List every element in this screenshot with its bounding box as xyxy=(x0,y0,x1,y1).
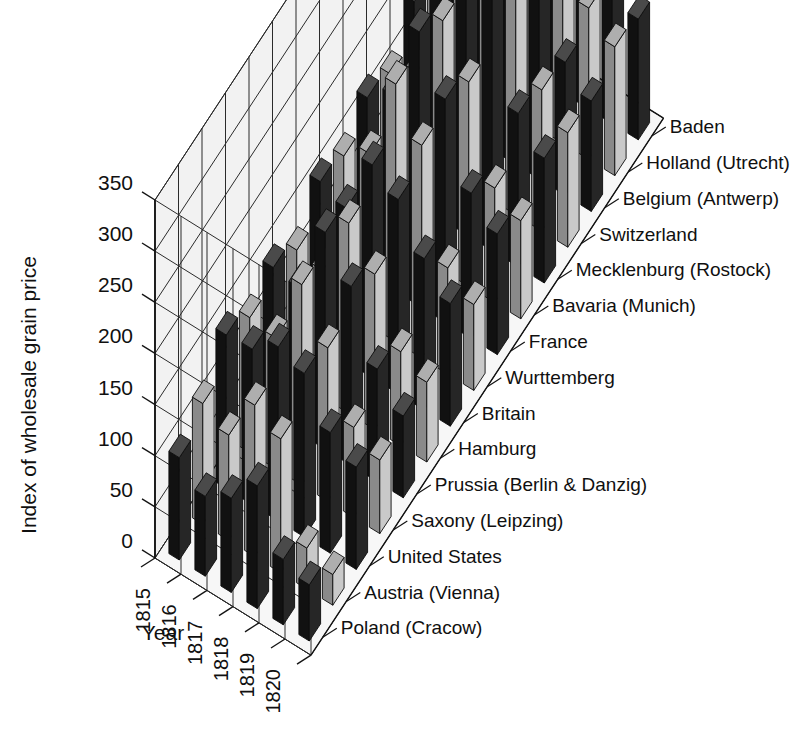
bar-side-face xyxy=(320,426,330,553)
series-axis-label: Wurttemberg xyxy=(505,367,614,388)
y-axis-tick-label: 0 xyxy=(121,529,133,552)
bar-side-face xyxy=(604,40,614,175)
bar-front-face xyxy=(638,2,649,140)
bar-side-face xyxy=(487,228,497,355)
series-axis-label: Prussia (Berlin & Danzig) xyxy=(435,474,647,495)
bar-14-5 xyxy=(628,0,650,140)
y-axis-tick-label: 250 xyxy=(98,273,133,296)
bar-side-face xyxy=(628,13,638,140)
bar-7-5 xyxy=(463,281,485,391)
y-axis-tick-label: 100 xyxy=(98,427,133,450)
bar-front-face xyxy=(544,141,555,283)
y-axis-tick xyxy=(142,345,155,353)
series-axis-label: United States xyxy=(388,546,502,567)
series-axis-label: Switzerland xyxy=(599,224,697,245)
x-axis-tick xyxy=(245,623,259,632)
series-axis-label: Austria (Vienna) xyxy=(364,582,500,603)
bar-13-5 xyxy=(604,23,626,176)
bar-side-face xyxy=(221,492,231,593)
grain-price-3d-bar-chart: 050100150200250300350 181518161817181818… xyxy=(0,0,801,733)
bar-0-2 xyxy=(221,475,243,593)
bar-side-face xyxy=(581,95,591,212)
bar-side-face xyxy=(416,376,426,462)
y-axis-tick-label: 200 xyxy=(98,324,133,347)
x-axis-tick xyxy=(141,558,155,567)
bar-0-1 xyxy=(195,473,217,576)
x-axis-tick xyxy=(297,655,311,664)
y-axis-tick xyxy=(142,397,155,405)
bar-side-face xyxy=(346,461,356,570)
bar-6-5 xyxy=(440,280,462,426)
bar-front-face xyxy=(257,469,268,609)
x-axis-tick xyxy=(219,607,233,616)
bar-side-face xyxy=(557,126,567,247)
y-axis-tick xyxy=(142,448,155,456)
bar-side-face xyxy=(247,479,257,608)
y-axis-tick xyxy=(142,192,155,200)
bar-side-face xyxy=(169,451,179,560)
bar-front-face xyxy=(521,204,532,319)
bar-10-5 xyxy=(534,135,556,283)
bar-8-5 xyxy=(487,210,509,354)
x-axis-tick xyxy=(271,639,285,648)
x-axis-tick-label: 1817 xyxy=(184,621,206,666)
y-axis-ticks: 050100150200250300350 xyxy=(98,171,155,558)
bar-front-face xyxy=(450,286,461,426)
bar-front-face xyxy=(356,450,367,569)
x-axis-tick xyxy=(193,590,207,599)
bar-front-face xyxy=(568,116,579,248)
bar-11-5 xyxy=(557,109,579,247)
bar-front-face xyxy=(591,84,602,212)
bar-side-face xyxy=(393,410,403,498)
x-axis-tick-label: 1820 xyxy=(262,669,284,714)
series-axis-label: Belgium (Antwerp) xyxy=(623,188,779,209)
y-axis-tick-label: 150 xyxy=(98,376,133,399)
x-axis-tick-label: 1818 xyxy=(210,637,232,682)
series-axis-label: Mecklenburg (Rostock) xyxy=(576,259,771,280)
series-axis-label: Britain xyxy=(482,403,536,424)
bar-front-face xyxy=(330,415,341,553)
chart-container: 050100150200250300350 181518161817181818… xyxy=(0,0,801,733)
bar-12-5 xyxy=(581,77,603,211)
bar-side-face xyxy=(273,553,283,625)
y-axis-tick xyxy=(142,294,155,302)
bar-4-5 xyxy=(393,392,415,498)
bar-0-4 xyxy=(273,536,295,625)
bar-side-face xyxy=(463,298,473,390)
y-axis-tick xyxy=(142,243,155,251)
series-axis-label: Saxony (Leipzing) xyxy=(411,510,563,531)
series-axis-label: Baden xyxy=(670,116,725,137)
bar-front-face xyxy=(179,441,190,560)
bar-side-face xyxy=(294,367,304,537)
y-axis-tick-label: 300 xyxy=(98,222,133,245)
series-axis-label: Hamburg xyxy=(458,438,536,459)
bar-side-face xyxy=(440,297,450,426)
y-axis-tick-label: 350 xyxy=(98,171,133,194)
bar-0-5 xyxy=(299,561,321,641)
bar-2-5 xyxy=(346,444,368,570)
bar-9-5 xyxy=(510,197,532,319)
x-axis-tick-label: 1819 xyxy=(236,653,258,698)
series-axis-label: Poland (Cracow) xyxy=(341,617,483,638)
x-axis-title: Year xyxy=(142,621,184,644)
y-axis-tick-label: 50 xyxy=(110,478,133,501)
bar-5-5 xyxy=(416,359,438,462)
bar-0-3 xyxy=(247,462,269,608)
bar-side-face xyxy=(195,490,205,576)
bar-front-face xyxy=(304,356,315,537)
bar-3-5 xyxy=(369,436,391,533)
bar-0-0 xyxy=(169,434,191,560)
bar-side-face xyxy=(510,214,520,319)
bar-side-face xyxy=(299,578,309,641)
bar-2-3 xyxy=(294,350,316,537)
bar-front-face xyxy=(474,287,485,390)
bar-side-face xyxy=(369,454,379,534)
bar-front-face xyxy=(231,481,242,592)
bar-front-face xyxy=(615,30,626,176)
series-axis-label: Holland (Utrecht) xyxy=(646,152,790,173)
y-axis-tick xyxy=(142,499,155,507)
x-axis-tick xyxy=(167,574,181,583)
series-axis-label: France xyxy=(529,331,588,352)
bar-2-4 xyxy=(320,409,342,553)
bar-side-face xyxy=(534,152,544,283)
